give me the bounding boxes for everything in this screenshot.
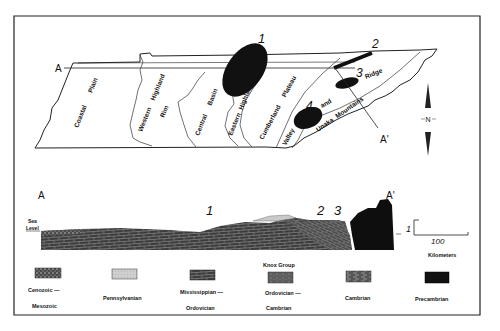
north-label: N (426, 116, 431, 123)
svg-text:Pennsylvanian: Pennsylvanian (103, 295, 142, 301)
xs-site-1: 1 (206, 203, 213, 218)
sea-level-line1: Sea (28, 218, 37, 224)
horizontal-scale-label: 100 (431, 237, 445, 246)
xs-site-2: 2 (316, 203, 325, 218)
north-arrow: N (421, 83, 436, 156)
site-2-label: 2 (371, 37, 379, 51)
vertical-scale-label: 1 (406, 224, 411, 234)
xs-site-3: 3 (334, 203, 342, 218)
sea-level-line2: Level (26, 225, 39, 231)
scale-bar: 1 100 Kilometers (396, 220, 468, 258)
site-4-label: 4 (306, 99, 313, 113)
tennessee-map: A 1 2 3 4 A' CoastalPlain WesternHighlan… (35, 31, 437, 156)
site-1-label: 1 (258, 31, 265, 46)
section-end-label: A' (380, 134, 389, 145)
legend: Cenozoic — Mesozoic Pennsylvanian Missis… (28, 262, 449, 311)
legend-item-ordovician-cambrian: Knox Group Ordovician — Cambrian (263, 262, 301, 311)
svg-text:Mississippian —: Mississippian — (180, 289, 224, 295)
svg-text:Cambrian: Cambrian (345, 295, 371, 301)
section-start-label: A (55, 63, 62, 74)
legend-item-mississippian-ordovician: Mississippian — Ordovician (180, 270, 224, 311)
geologic-figure: A 1 2 3 4 A' CoastalPlain WesternHighlan… (0, 0, 500, 331)
stratum-precambrian (350, 199, 394, 250)
legend-item-precambrian: Precambrian (415, 272, 449, 302)
svg-text:Cenozoic —: Cenozoic — (28, 287, 60, 293)
svg-text:Mesozoic: Mesozoic (32, 303, 57, 309)
svg-text:Ordovician: Ordovician (186, 305, 215, 311)
north-arrow-top (425, 83, 431, 108)
legend-item-pennsylvanian: Pennsylvanian (103, 269, 142, 301)
knox-group-label: Knox Group (263, 262, 295, 268)
legend-item-cambrian: Cambrian (345, 271, 371, 301)
north-arrow-bottom (425, 132, 431, 156)
legend-item-cenozoic-mesozoic: Cenozoic — Mesozoic (28, 268, 61, 309)
site-3-label: 3 (356, 66, 363, 80)
scale-unit-label: Kilometers (428, 252, 456, 258)
xs-start-label: A (38, 190, 45, 201)
svg-text:Cambrian: Cambrian (266, 305, 292, 311)
cross-section: A A' Sea Level 1 2 3 1 100 Kilometers (26, 190, 468, 258)
svg-text:Ordovician —: Ordovician — (265, 290, 301, 296)
svg-text:Precambrian: Precambrian (415, 296, 449, 302)
